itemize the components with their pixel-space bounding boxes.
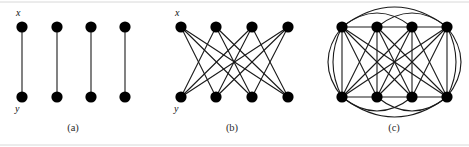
panel-caption-a: (a) xyxy=(67,122,79,134)
graph-vertex xyxy=(210,91,221,102)
graph-vertex xyxy=(441,91,452,102)
graph-vertex xyxy=(441,21,452,32)
graph-arc-edge xyxy=(328,27,342,97)
graph-vertex xyxy=(406,21,417,32)
vertex-label: x xyxy=(174,7,180,18)
graph-vertex xyxy=(282,91,293,102)
panel-caption-b: (b) xyxy=(226,122,239,134)
graph-vertex xyxy=(336,91,347,102)
graph-vertex xyxy=(51,91,62,102)
graph-vertex xyxy=(282,21,293,32)
graph-vertex xyxy=(246,21,257,32)
graph-arc-edge xyxy=(447,27,461,97)
graph-figure-svg: xyxy (a)(b)(c) xyxy=(0,0,469,147)
vertex-label: x xyxy=(15,7,21,18)
graph-vertex xyxy=(246,91,257,102)
panel-captions-layer: (a)(b)(c) xyxy=(67,122,400,134)
graph-vertex xyxy=(336,21,347,32)
graph-vertex xyxy=(119,91,130,102)
graph-vertex xyxy=(175,21,186,32)
graph-vertex xyxy=(210,21,221,32)
vertex-label: y xyxy=(14,103,20,114)
graph-vertex xyxy=(371,91,382,102)
graph-vertex xyxy=(119,21,130,32)
vertex-label: y xyxy=(173,103,179,114)
figure-container: xyxy (a)(b)(c) xyxy=(0,0,469,147)
graph-vertex xyxy=(16,91,27,102)
graph-vertex xyxy=(85,91,96,102)
graph-vertex xyxy=(175,91,186,102)
graph-vertex xyxy=(85,21,96,32)
graph-vertex xyxy=(16,21,27,32)
panel-caption-c: (c) xyxy=(388,122,400,134)
vertex-labels-layer: xyxy xyxy=(14,7,180,114)
graph-vertex xyxy=(406,91,417,102)
graph-vertex xyxy=(371,21,382,32)
graph-vertex xyxy=(51,21,62,32)
